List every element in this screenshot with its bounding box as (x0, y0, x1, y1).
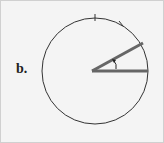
ray-angled (92, 43, 143, 71)
circle-angle-diagram (0, 0, 164, 143)
